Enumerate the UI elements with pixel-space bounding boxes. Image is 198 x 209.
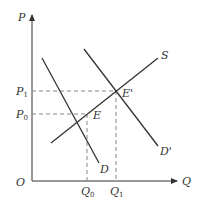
equilibrium-e-label: E [92, 109, 101, 122]
demand-label: D [99, 163, 109, 176]
demand-curve [42, 58, 99, 163]
y-axis-label: P [17, 11, 26, 24]
supply-demand-diagram: P Q O P1 P0 Q0 Q1 S D D' E E' [0, 0, 198, 209]
shifted-demand-curve [84, 49, 158, 146]
q0-label: Q0 [81, 185, 95, 199]
x-axis-label: Q [182, 175, 191, 188]
q1-label: Q1 [110, 185, 124, 199]
p1-label: P1 [15, 85, 28, 99]
supply-curve [51, 58, 158, 143]
supply-label: S [161, 49, 169, 62]
p0-label: P0 [15, 108, 28, 122]
shifted-demand-label: D' [159, 145, 172, 158]
equilibrium-e-prime-label: E' [121, 87, 133, 100]
origin-label: O [16, 176, 25, 189]
